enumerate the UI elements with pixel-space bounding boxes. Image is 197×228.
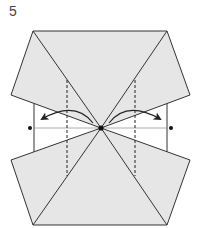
- center-point-dot: [98, 125, 103, 130]
- origami-diagram: [0, 0, 197, 228]
- left-target-dot: [28, 126, 32, 130]
- right-target-dot: [169, 126, 173, 130]
